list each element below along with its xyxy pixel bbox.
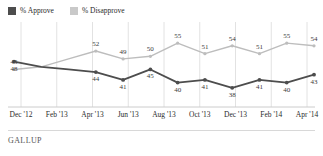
- source-label: GALLUP: [8, 136, 42, 145]
- chart-plot-area: 4552495055515451555448444145404138414043: [0, 20, 323, 110]
- data-point: [258, 78, 262, 82]
- data-point: [231, 44, 234, 47]
- data-label: 50: [147, 45, 155, 53]
- x-axis-labels: Dec '12Feb '13Apr '13Jun '13Aug '13Oct '…: [0, 110, 323, 124]
- data-point: [312, 44, 315, 47]
- data-label: 41: [256, 83, 264, 91]
- data-label: 51: [256, 43, 264, 51]
- data-label: 41: [120, 83, 128, 91]
- x-tick-0: Dec '12: [10, 110, 33, 119]
- x-tick-7: Feb '14: [260, 110, 282, 119]
- data-label: 38: [229, 91, 237, 99]
- data-label: 40: [174, 86, 182, 94]
- data-label: 48: [11, 65, 19, 73]
- data-point: [285, 81, 289, 85]
- data-point: [121, 78, 125, 82]
- x-tick-4: Aug '13: [152, 110, 176, 119]
- data-label: 43: [311, 78, 319, 86]
- data-point: [94, 70, 98, 74]
- data-label: 41: [201, 83, 209, 91]
- legend-swatch-approve-icon: [8, 7, 16, 15]
- chart-svg: 4552495055515451555448444145404138414043: [0, 20, 323, 110]
- data-label: 51: [201, 43, 209, 51]
- legend-item-disapprove: % Disapprove: [70, 7, 125, 15]
- data-point: [230, 86, 234, 90]
- data-point: [203, 78, 207, 82]
- data-point: [149, 55, 152, 58]
- data-point: [176, 42, 179, 45]
- data-point: [258, 52, 261, 55]
- data-label: 54: [311, 35, 319, 43]
- data-label: 44: [92, 75, 100, 83]
- data-point: [312, 73, 316, 77]
- legend-label-approve: % Approve: [20, 7, 54, 15]
- chart-legend: % Approve % Disapprove: [8, 5, 125, 17]
- legend-item-approve: % Approve: [8, 7, 54, 15]
- x-tick-5: Oct '13: [189, 110, 211, 119]
- footer-divider: [8, 130, 315, 131]
- data-label: 54: [229, 35, 237, 43]
- legend-swatch-disapprove-icon: [70, 7, 78, 15]
- data-label: 40: [283, 86, 291, 94]
- data-label: 52: [92, 40, 100, 48]
- gallup-approval-chart: % Approve % Disapprove 45524950555154515…: [0, 0, 323, 156]
- x-tick-1: Feb '13: [46, 110, 68, 119]
- data-label: 49: [120, 48, 128, 56]
- data-label: 55: [174, 32, 182, 40]
- data-point: [176, 81, 180, 85]
- x-tick-2: Apr '13: [81, 110, 103, 119]
- data-point: [285, 42, 288, 45]
- data-point: [94, 49, 97, 52]
- data-point: [148, 68, 152, 72]
- data-point: [121, 57, 124, 60]
- data-label: 55: [283, 32, 291, 40]
- data-point: [203, 52, 206, 55]
- legend-label-disapprove: % Disapprove: [82, 7, 125, 15]
- x-tick-6: Dec '13: [224, 110, 247, 119]
- x-tick-3: Jun '13: [118, 110, 139, 119]
- x-tick-8: Apr '14: [296, 110, 318, 119]
- data-label: 45: [147, 72, 155, 80]
